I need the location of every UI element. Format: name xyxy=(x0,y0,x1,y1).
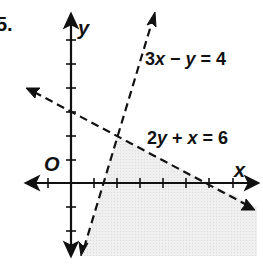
problem-number: 5. xyxy=(0,14,13,34)
y-axis xyxy=(65,14,77,256)
equation-label-line2: 2y + x = 6 xyxy=(147,129,228,147)
y-axis-label: y xyxy=(78,18,89,38)
equation-label-line1: 3x − y = 4 xyxy=(145,50,226,68)
x-axis-label: x xyxy=(234,160,245,180)
origin-label: O xyxy=(44,154,60,174)
